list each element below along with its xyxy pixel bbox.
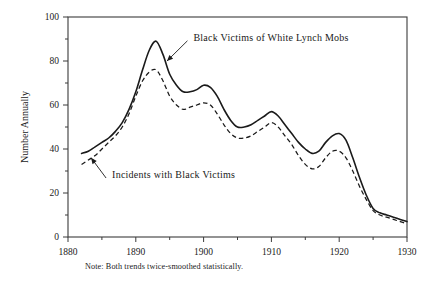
series-line-victims — [82, 41, 407, 221]
annotation-label-victims: Black Victims of White Lynch Mobs — [193, 32, 348, 43]
y-tick-label: 20 — [50, 188, 60, 198]
x-tick-label: 1890 — [126, 247, 145, 257]
x-tick-label: 1920 — [330, 247, 349, 257]
annotation-label-incidents: Incidents with Black Victims — [112, 169, 235, 180]
y-tick-label: 80 — [50, 56, 60, 66]
lynching-trends-chart: 020406080100188018901900191019201930Numb… — [0, 0, 439, 286]
annotation-arrowhead-1 — [91, 158, 97, 164]
series-line-incidents — [82, 69, 407, 224]
x-tick-label: 1880 — [59, 247, 78, 257]
y-tick-label: 100 — [45, 12, 60, 22]
chart-note: Note: Both trends twice-smoothed statist… — [85, 262, 243, 271]
x-tick-label: 1910 — [262, 247, 281, 257]
y-tick-label: 0 — [54, 232, 59, 242]
chart-canvas: 020406080100188018901900191019201930Numb… — [0, 0, 439, 286]
y-axis-title: Number Annually — [19, 91, 30, 163]
x-tick-label: 1930 — [398, 247, 417, 257]
y-tick-label: 40 — [50, 144, 60, 154]
x-tick-label: 1900 — [194, 247, 213, 257]
y-tick-label: 60 — [50, 100, 60, 110]
